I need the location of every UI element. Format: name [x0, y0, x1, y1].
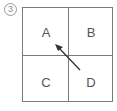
arrow-d-to-a-icon [0, 0, 117, 111]
